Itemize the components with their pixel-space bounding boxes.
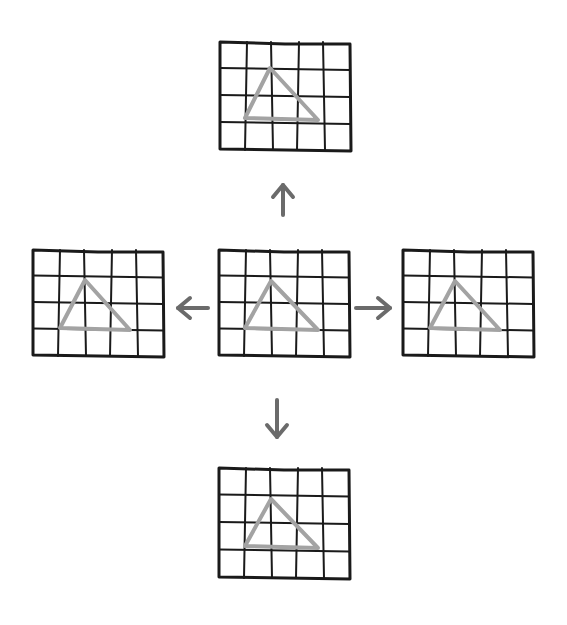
arrow-down-icon — [267, 400, 287, 437]
grid-panel-top — [220, 42, 351, 151]
grid-line — [33, 302, 163, 304]
arrow-up-icon — [273, 185, 293, 215]
direction-arrows — [178, 185, 390, 437]
grid-line — [220, 68, 350, 70]
diagram-canvas — [0, 0, 567, 625]
triangle-shape — [245, 281, 318, 330]
triangle-shape — [430, 281, 500, 330]
grid-line — [403, 302, 533, 304]
grid-line — [219, 522, 349, 524]
grid-panel-right — [403, 250, 534, 357]
grid-line — [219, 495, 349, 497]
grid-line — [219, 276, 349, 278]
grid-panel-left — [33, 250, 164, 357]
grid-line — [403, 276, 533, 278]
grid-line — [220, 95, 350, 97]
triangle-shape — [245, 68, 318, 120]
grid-line — [220, 122, 350, 124]
grid-line — [33, 276, 163, 278]
grid-line — [219, 550, 349, 552]
triangle-shape — [60, 280, 130, 330]
grid-panels — [33, 42, 534, 579]
grid-line — [219, 302, 349, 304]
grid-panel-bottom — [219, 468, 350, 579]
grid-panel-center — [219, 250, 350, 357]
arrow-left-icon — [178, 298, 208, 318]
arrow-right-icon — [356, 298, 390, 318]
